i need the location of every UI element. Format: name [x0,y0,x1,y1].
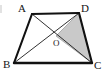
vertex-label-d: D [81,3,89,14]
vertex-label-b: B [3,59,10,70]
figure-canvas [0,0,106,74]
vertex-label-c: C [94,60,101,71]
point-label-o: O [53,39,60,48]
geometry-figure: A D B C O [0,0,106,74]
edge-ad [32,13,79,14]
vertex-label-a: A [18,3,26,14]
